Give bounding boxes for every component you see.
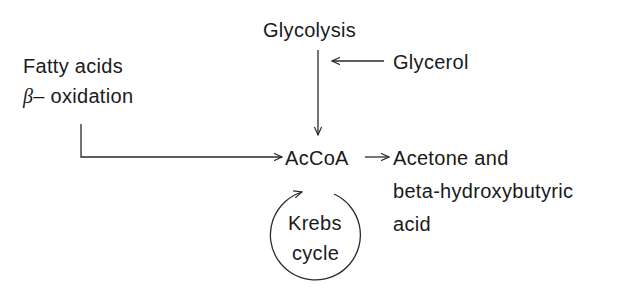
beta-symbol: β <box>23 85 33 107</box>
node-glycerol: Glycerol <box>393 52 469 72</box>
node-products-line2: beta-hydroxybutyric <box>393 181 573 201</box>
node-fatty-acids: Fatty acids <box>23 56 123 76</box>
node-krebs-line1: Krebs <box>288 213 342 233</box>
node-beta-oxidation: β– oxidation <box>23 86 133 106</box>
beta-oxidation-label: – oxidation <box>33 85 133 107</box>
node-products-line1: Acetone and <box>393 148 509 168</box>
node-accoa: AcCoA <box>285 148 349 168</box>
fatty-acids-to-accoa-arrow <box>81 124 282 157</box>
krebs-cycle-arrow <box>270 192 360 280</box>
node-products-line3: acid <box>393 214 431 234</box>
node-glycolysis: Glycolysis <box>263 20 356 40</box>
node-krebs-line2: cycle <box>292 243 339 263</box>
